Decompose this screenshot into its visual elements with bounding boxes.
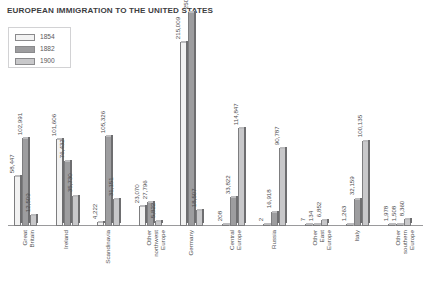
bar-rect (279, 148, 286, 226)
bar-value-label: 5,822 (149, 203, 155, 218)
bar-value-label: 101,606 (50, 114, 56, 136)
bar[interactable]: 18,507 (196, 210, 203, 226)
bar-value-label: 31,151 (108, 177, 114, 196)
bar-rect (196, 210, 203, 226)
bar-value-label: 32,159 (349, 177, 355, 196)
bar-value-label: 250,630 (183, 0, 189, 9)
bar-value-label: 6,852 (315, 202, 321, 217)
bar-rect (64, 161, 71, 226)
bar-value-label: 33,822 (224, 175, 230, 194)
bar-group: 1,26332,159100,135 (346, 12, 369, 226)
bar-group: 20833,822114,847 (222, 12, 245, 226)
bar-value-label: 18,507 (191, 188, 197, 207)
bar-value-label: 102,991 (17, 113, 23, 135)
bar-value-label: 105,326 (100, 111, 106, 133)
bar-rect (113, 199, 120, 226)
bar[interactable]: 134 (313, 225, 320, 227)
bar-group: 4,222105,32631,151 (97, 12, 120, 226)
bar[interactable]: 215,009 (180, 42, 187, 226)
bar-value-label: 215,009 (175, 17, 181, 39)
bar[interactable]: 12,509 (30, 215, 37, 226)
bar-value-label: 1,978 (382, 206, 388, 221)
bar[interactable]: 102,991 (22, 138, 29, 226)
bar-value-label: 27,796 (141, 180, 147, 199)
bar-rect (396, 224, 403, 226)
category-label: GreatBritain (21, 230, 35, 248)
bar-rect (72, 196, 79, 227)
bar-value-label: 12,509 (25, 193, 31, 212)
bar-value-label: 8,360 (398, 200, 404, 215)
bar[interactable]: 33,822 (230, 197, 237, 226)
bar[interactable]: 76,432 (64, 161, 71, 226)
bar-rect (263, 224, 270, 226)
bar-rect (321, 220, 328, 226)
bar-rect (22, 138, 29, 226)
bar[interactable]: 90,787 (279, 148, 286, 226)
category-label: Italy (353, 230, 360, 241)
bar-value-label: 1,508 (390, 206, 396, 221)
bar-group: 101,60676,43235,730 (56, 12, 79, 226)
bar-value-label: 23,070 (133, 184, 139, 203)
category-label: OthersouthernEurope (394, 230, 415, 254)
category-label: Germany (187, 230, 194, 255)
category-label: Russia (270, 230, 277, 249)
bar-group: 1,9781,5088,360 (388, 12, 411, 226)
bar-rect (271, 212, 278, 226)
category-label: CentralEurope (228, 230, 242, 250)
bar-rect (180, 42, 187, 226)
bar[interactable]: 35,730 (72, 196, 79, 227)
bar-value-label: 16,918 (266, 190, 272, 209)
bar[interactable]: 114,847 (238, 128, 245, 226)
bar-value-label: 4,222 (92, 204, 98, 219)
bar-rect (222, 224, 229, 226)
bar-rect (155, 221, 162, 226)
bar-value-label: 208 (216, 211, 222, 221)
bar-group: 23,07027,7965,822 (139, 12, 162, 226)
bar-value-label: 100,135 (357, 115, 363, 137)
bar-value-label: 90,787 (274, 127, 280, 146)
bar[interactable]: 1,263 (346, 225, 353, 227)
bar-rect (388, 224, 395, 226)
plot-area: 58,447102,99112,509101,60676,43235,7304,… (8, 12, 423, 226)
chart-container: European immigration to the United State… (0, 0, 429, 289)
category-label: OtherEastEurope (311, 230, 332, 250)
bar-rect (346, 224, 353, 226)
bar-rect (354, 199, 361, 226)
bar[interactable]: 6,852 (321, 220, 328, 226)
bar[interactable]: 58,447 (14, 176, 21, 226)
bar-rect (14, 176, 21, 226)
bar[interactable]: 16,918 (271, 212, 278, 226)
bar[interactable]: 1,508 (396, 225, 403, 227)
bar-rect (404, 219, 411, 226)
bar[interactable]: 8,360 (404, 219, 411, 226)
bar-group: 215,009250,63018,507 (180, 12, 203, 226)
bar-rect (30, 215, 37, 226)
bar[interactable]: 2 (263, 225, 270, 227)
bar[interactable]: 4,222 (97, 222, 104, 226)
bar-group: 71346,852 (305, 12, 328, 226)
bar[interactable]: 31,151 (113, 199, 120, 226)
category-label: Ireland (62, 230, 69, 249)
bar[interactable]: 23,070 (139, 206, 146, 226)
bar-rect (313, 224, 320, 226)
bar[interactable]: 208 (222, 225, 229, 227)
bar[interactable]: 7 (305, 225, 312, 227)
bar-rect (230, 197, 237, 226)
bar-value-label: 35,730 (66, 174, 72, 193)
bar[interactable]: 100,135 (362, 141, 369, 227)
bar-value-label: 7 (299, 218, 305, 221)
bar-value-label: 114,847 (232, 103, 238, 125)
bar-rect (362, 141, 369, 227)
bar-rect (238, 128, 245, 226)
category-label: OthernorthwestEurope (145, 230, 166, 257)
category-label: Scandinavia (104, 230, 111, 264)
bar-value-label: 134 (307, 211, 313, 221)
bar-rect (305, 224, 312, 226)
bar[interactable]: 1,978 (388, 224, 395, 226)
bar[interactable]: 32,159 (354, 199, 361, 226)
bar-value-label: 2 (258, 218, 264, 221)
bar-value-label: 58,447 (9, 154, 15, 173)
bar[interactable]: 5,822 (155, 221, 162, 226)
bar-value-label: 76,432 (58, 139, 64, 158)
bar-group: 58,447102,99112,509 (14, 12, 37, 226)
